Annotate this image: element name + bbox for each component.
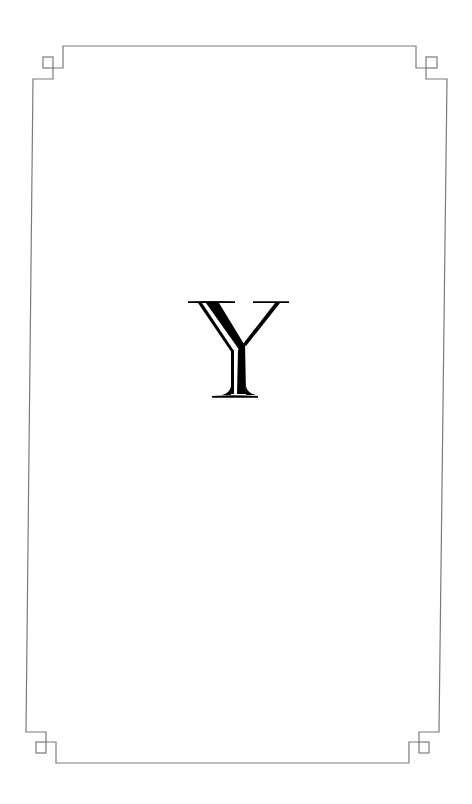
ornamental-initial-y-icon (187, 301, 289, 398)
corner-square-bottom-right (419, 742, 429, 753)
decorative-border-frame (0, 0, 472, 804)
corner-square-bottom-left (36, 742, 46, 753)
corner-square-top-left (43, 57, 53, 68)
corner-square-top-right (426, 57, 437, 68)
frame-outline (26, 46, 447, 763)
book-page: Y (0, 0, 472, 804)
